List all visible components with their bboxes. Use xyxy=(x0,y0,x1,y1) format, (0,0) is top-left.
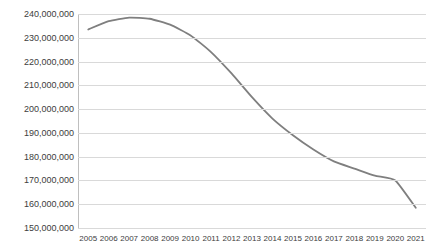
x-axis-tick-label: 2012 xyxy=(223,233,241,244)
gridline xyxy=(78,204,426,205)
y-axis-tick-label: 220,000,000 xyxy=(2,57,74,68)
y-axis-tick-label: 180,000,000 xyxy=(2,152,74,163)
gridline xyxy=(78,38,426,39)
x-axis-tick-label: 2018 xyxy=(345,233,363,244)
y-axis-tick-label: 210,000,000 xyxy=(2,80,74,91)
x-axis-tick-label: 2015 xyxy=(284,233,302,244)
x-axis-tick-label: 2020 xyxy=(386,233,404,244)
y-axis-tick-label: 170,000,000 xyxy=(2,175,74,186)
plot-area xyxy=(78,14,426,228)
y-axis-tick-label: 150,000,000 xyxy=(2,223,74,234)
x-axis-tick-label: 2006 xyxy=(100,233,118,244)
gridline xyxy=(78,109,426,110)
data-series-path xyxy=(88,18,416,208)
x-axis-tick-label: 2011 xyxy=(202,233,219,244)
gridline xyxy=(78,62,426,63)
gridline xyxy=(78,180,426,181)
gridline xyxy=(78,14,426,15)
x-axis-tick-label: 2008 xyxy=(141,233,159,244)
x-axis-tick-label: 2010 xyxy=(182,233,200,244)
x-axis-tick-label: 2013 xyxy=(243,233,261,244)
y-axis-tick-label: 200,000,000 xyxy=(2,104,74,115)
y-axis-tick-label: 240,000,000 xyxy=(2,9,74,20)
x-axis-tick-label: 2017 xyxy=(325,233,343,244)
gridline xyxy=(78,157,426,158)
y-axis-tick-label: 230,000,000 xyxy=(2,33,74,44)
x-axis-tick-label: 2016 xyxy=(305,233,323,244)
gridline xyxy=(78,85,426,86)
y-axis: 150,000,000160,000,000170,000,000180,000… xyxy=(0,0,74,250)
series-line xyxy=(78,14,426,228)
y-axis-tick-label: 160,000,000 xyxy=(2,199,74,210)
y-axis-tick-label: 190,000,000 xyxy=(2,128,74,139)
x-axis: 2005200620072008200920102011201220132014… xyxy=(78,233,426,245)
line-chart: 150,000,000160,000,000170,000,000180,000… xyxy=(0,0,432,250)
x-axis-tick-label: 2019 xyxy=(366,233,384,244)
x-axis-tick-label: 2009 xyxy=(161,233,179,244)
gridline xyxy=(78,228,426,229)
x-axis-tick-label: 2014 xyxy=(264,233,282,244)
gridline xyxy=(78,133,426,134)
x-axis-tick-label: 2007 xyxy=(120,233,138,244)
x-axis-tick-label: 2021 xyxy=(407,233,425,244)
x-axis-tick-label: 2005 xyxy=(79,233,97,244)
